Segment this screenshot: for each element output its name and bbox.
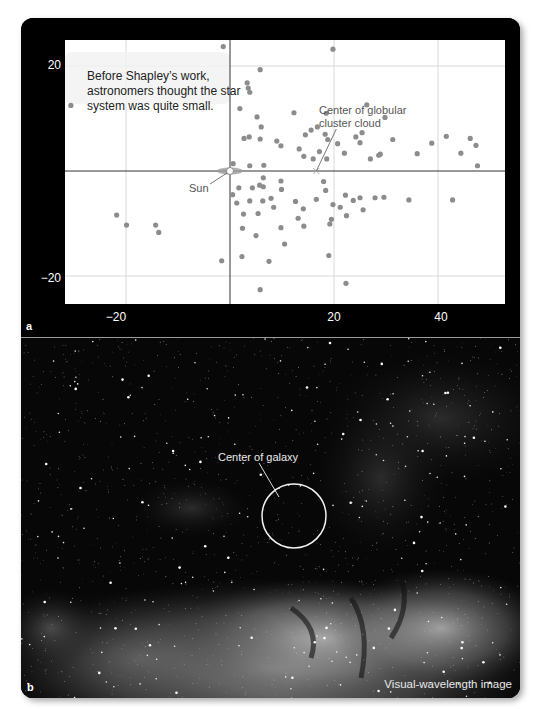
data-point	[406, 197, 411, 202]
data-point	[274, 138, 279, 143]
data-point	[261, 163, 266, 168]
data-point	[278, 143, 283, 148]
data-point	[468, 136, 473, 141]
panel-a-label: a	[26, 320, 32, 332]
data-point	[253, 233, 258, 238]
data-point	[259, 124, 264, 129]
data-point	[258, 287, 263, 292]
data-point	[301, 154, 306, 159]
image-caption: Visual-wavelength image	[384, 678, 512, 690]
data-point	[301, 206, 306, 211]
data-point	[303, 132, 308, 137]
data-point	[330, 202, 335, 207]
data-point	[357, 195, 362, 200]
data-point	[330, 47, 335, 52]
data-point	[124, 222, 129, 227]
data-point	[353, 134, 358, 139]
data-point	[247, 198, 252, 203]
panel-b-milky-way-photo: Center of galaxy b Visual-wavelength ima…	[21, 338, 520, 698]
data-point	[473, 143, 478, 148]
data-point	[260, 198, 265, 203]
sun-marker-icon	[227, 168, 234, 175]
data-point	[68, 103, 73, 108]
data-point	[323, 132, 328, 137]
data-point	[219, 258, 224, 263]
data-point	[429, 141, 434, 146]
y-tick-20: 20	[25, 58, 61, 72]
data-point	[321, 179, 326, 184]
data-point	[344, 213, 349, 218]
data-point	[255, 211, 260, 216]
data-point	[258, 136, 263, 141]
data-point	[325, 137, 330, 142]
shapley-note: Before Shapley’s work, astronomers thoug…	[87, 69, 240, 114]
data-point	[326, 253, 331, 258]
data-point	[296, 216, 301, 221]
x-tick-40: 40	[421, 310, 461, 324]
data-point	[279, 187, 284, 192]
data-point	[323, 188, 328, 193]
data-point	[450, 197, 455, 202]
cluster-center-label-line-1: Center of globular	[319, 104, 406, 117]
data-point	[156, 230, 161, 235]
data-point	[368, 156, 373, 161]
data-point	[278, 178, 283, 183]
sun-leader-line	[210, 173, 227, 184]
data-point	[376, 153, 381, 158]
data-point	[114, 213, 119, 218]
data-point	[293, 199, 298, 204]
data-point	[343, 193, 348, 198]
data-point	[301, 224, 306, 229]
data-point	[245, 80, 250, 85]
data-point	[247, 134, 252, 139]
data-point	[261, 175, 266, 180]
data-point	[153, 222, 158, 227]
data-point	[291, 110, 296, 115]
data-point	[236, 185, 241, 190]
data-point	[241, 211, 246, 216]
cluster-center-label-line-2: cluster cloud	[319, 117, 406, 130]
x-tick-minus-20: −20	[96, 310, 136, 324]
data-point	[317, 149, 322, 154]
data-point	[329, 217, 334, 222]
data-point	[372, 195, 377, 200]
data-point	[254, 114, 259, 119]
data-point	[241, 136, 246, 141]
data-point	[335, 141, 340, 146]
data-point	[261, 184, 266, 189]
shapley-note-line-1: Before Shapley’s work,	[87, 69, 240, 84]
panel-b-label: b	[27, 681, 34, 693]
data-point	[278, 225, 283, 230]
data-point	[343, 281, 348, 286]
panel-a: 20 −20 −20 20 40 a Before Shapley’s work…	[21, 18, 520, 337]
data-point	[282, 241, 287, 246]
data-point	[268, 196, 273, 201]
data-point	[342, 151, 347, 156]
data-point	[357, 140, 362, 145]
y-tick-minus-20: −20	[25, 271, 61, 285]
data-point	[247, 163, 252, 168]
data-point	[231, 161, 236, 166]
data-point	[221, 44, 226, 49]
data-point	[351, 198, 356, 203]
data-point	[230, 192, 235, 197]
star-field-image	[21, 338, 520, 698]
sun-label: Sun	[189, 182, 209, 195]
data-point	[309, 127, 314, 132]
data-point	[314, 197, 319, 202]
data-point	[381, 195, 386, 200]
data-point	[271, 205, 276, 210]
data-point	[247, 90, 252, 95]
data-point	[415, 151, 420, 156]
data-point	[390, 137, 395, 142]
data-point	[327, 221, 332, 226]
figure-card: 20 −20 −20 20 40 a Before Shapley’s work…	[21, 18, 520, 698]
cluster-center-label: Center of globular cluster cloud	[319, 104, 406, 130]
data-point	[266, 259, 271, 264]
galaxy-center-label: Center of galaxy	[218, 451, 298, 463]
data-point	[361, 207, 366, 212]
data-point	[234, 200, 239, 205]
data-point	[240, 226, 245, 231]
shapley-note-line-3: system was quite small.	[87, 99, 240, 114]
data-point	[458, 151, 463, 156]
